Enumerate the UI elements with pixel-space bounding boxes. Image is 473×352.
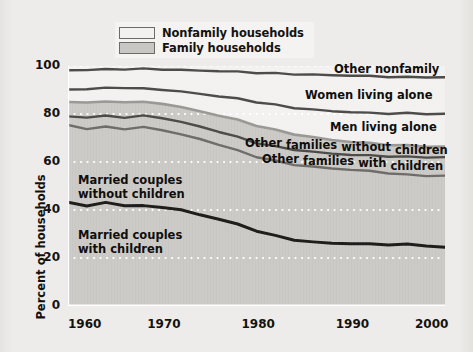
annotation-word: families: [286, 138, 337, 152]
label-married-couples-with-children: Married coupleswith children: [78, 228, 182, 256]
household-composition-figure: Nonfamily households Family households P…: [0, 0, 473, 352]
annotation-line: with children: [78, 242, 182, 256]
annotation-word: Other: [245, 136, 282, 150]
label-married-couples-without-children: Married coupleswithout children: [78, 173, 185, 201]
annotation-word: with: [358, 156, 386, 170]
label-other-families-without-children: Otherfamilieswithoutchildren: [245, 136, 452, 150]
x-tick-label: 1980: [242, 317, 275, 331]
legend-swatch-nonfamily: [119, 27, 155, 39]
label-other-nonfamily: Other nonfamily: [334, 62, 439, 76]
annotation-line: Married couples: [78, 173, 185, 187]
label-men-living-alone: Men living alone: [330, 120, 437, 134]
y-tick-label: 20: [30, 250, 60, 264]
y-tick-label: 80: [30, 106, 60, 120]
label-women-living-alone: Women living alone: [305, 88, 432, 102]
annotation-word: children: [390, 159, 443, 173]
x-tick-label: 2000: [415, 317, 448, 331]
annotation-word: families: [303, 154, 354, 168]
y-axis-ticks: 100806040200: [28, 0, 60, 352]
x-axis-ticks: 19601970198019902000: [0, 309, 473, 329]
chart-legend: Nonfamily households Family households: [115, 22, 314, 58]
annotation-word: Other: [262, 152, 299, 166]
legend-label-nonfamily: Nonfamily households: [162, 26, 304, 40]
annotation-line: Married couples: [78, 228, 182, 242]
x-tick-label: 1970: [147, 317, 180, 331]
y-tick-label: 60: [30, 154, 60, 168]
legend-item-nonfamily: Nonfamily households: [119, 25, 304, 40]
x-tick-label: 1990: [336, 317, 369, 331]
y-tick-label: 40: [30, 202, 60, 216]
y-tick-label: 100: [30, 58, 60, 72]
legend-label-family: Family households: [162, 41, 281, 55]
label-other-families-with-children: Otherfamilieswithchildren: [262, 152, 447, 166]
x-tick-label: 1960: [68, 317, 101, 331]
legend-swatch-family: [119, 42, 155, 54]
annotation-line: without children: [78, 187, 185, 201]
legend-item-family: Family households: [119, 40, 304, 55]
